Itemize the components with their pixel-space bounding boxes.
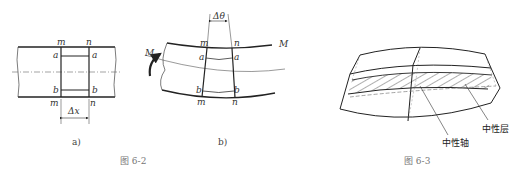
angle-delta-theta: Δθ [212,11,225,21]
label-a-right-a: a [92,50,97,60]
label-b-left-b: b [196,85,202,95]
label-n-bottom-a: n [90,98,96,108]
label-m-top-b: m [200,38,209,48]
label-m-top-a: m [57,37,66,47]
figure-6-2a-straight-beam [12,47,122,124]
label-a-right-b: a [234,52,239,62]
figure-6-3-bent-block [340,47,500,135]
label-n-top-a: n [86,37,92,47]
label-n-bottom-b: n [232,97,238,107]
diagram-canvas: m n a a b b m n Δx a) m n a a b b m n Δθ… [0,0,522,179]
label-b-right-a: b [92,85,98,95]
label-neutral-axis: 中性轴 [442,137,469,148]
moment-label-left: M [144,48,155,58]
label-b-left-a: b [53,85,59,95]
label-m-bottom-a: m [50,98,59,108]
figure-caption-6-2: 图 6-2 [120,156,146,166]
label-b-right-b: b [234,85,240,95]
moment-label-right: M [278,39,289,49]
label-n-top-b: n [234,38,240,48]
label-a-left-b: a [199,52,204,62]
dimension-delta-x: Δx [67,106,80,116]
subfigure-label-b: b) [218,137,227,147]
label-a-left-a: a [53,50,58,60]
subfigure-label-a: a) [72,137,81,147]
label-neutral-layer: 中性层 [482,123,509,134]
figure-6-2b-bent-beam [145,14,285,98]
figure-caption-6-3: 图 6-3 [404,156,431,166]
label-m-bottom-b: m [197,97,206,107]
